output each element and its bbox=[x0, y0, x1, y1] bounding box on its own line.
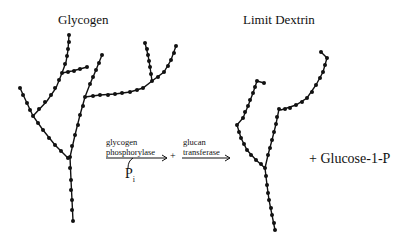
phosphate-label: Pi bbox=[125, 166, 135, 184]
enzyme2-label: glucan transferase bbox=[183, 137, 220, 157]
enzyme2-line2: transferase bbox=[183, 147, 220, 157]
glucose-units bbox=[18, 33, 329, 232]
glycogen-chain-a bbox=[33, 35, 69, 116]
enzyme1-label: glycogen phosphorylase bbox=[106, 137, 155, 157]
molecule-diagram bbox=[0, 0, 403, 245]
dextrin-right-chain bbox=[265, 52, 327, 230]
product-label: + Glucose-1-P bbox=[309, 151, 390, 167]
enzyme1-line1: glycogen bbox=[106, 137, 155, 147]
glycogen-chain-b bbox=[70, 55, 102, 221]
enzyme2-line1: glucan bbox=[183, 137, 220, 147]
phosphate-subscript: i bbox=[133, 175, 135, 184]
plus-sign: + bbox=[170, 150, 176, 161]
enzyme1-line2: phosphorylase bbox=[106, 147, 155, 157]
glycogen-chain-left bbox=[20, 88, 68, 158]
phosphate-symbol: P bbox=[125, 166, 133, 181]
